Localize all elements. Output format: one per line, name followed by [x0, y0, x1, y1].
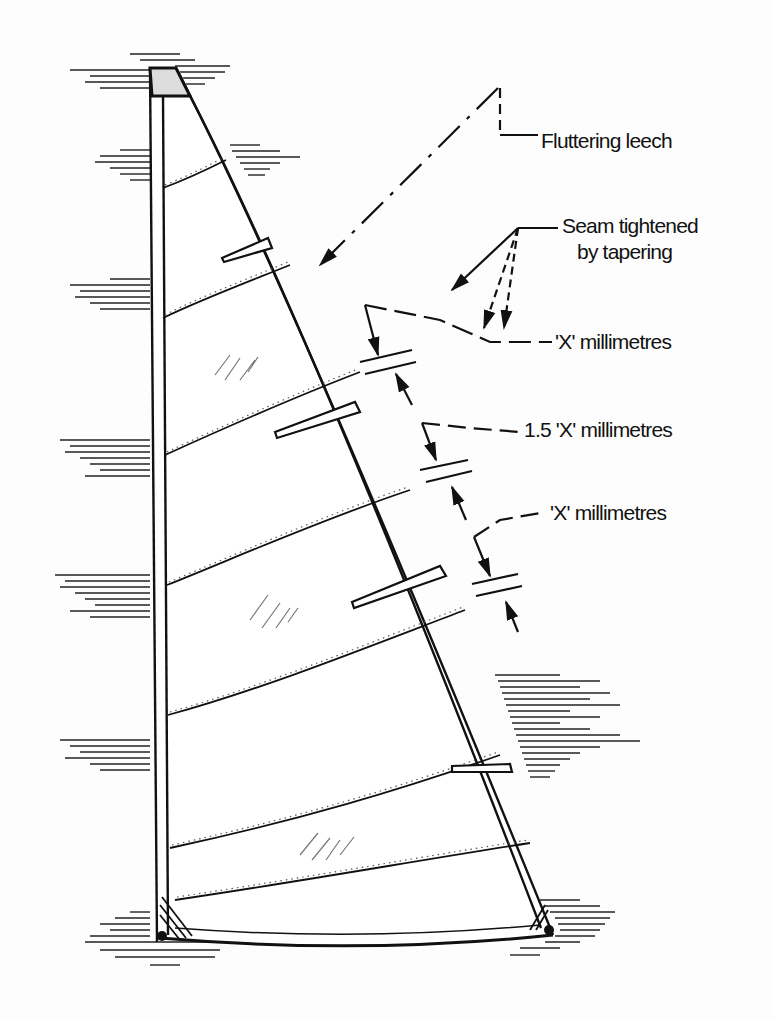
label-x-millimetres-bottom: 'X' millimetres: [550, 501, 666, 524]
label-1-5x-millimetres: 1.5 'X' millimetres: [524, 418, 672, 441]
dimension-x-bottom: [472, 512, 546, 632]
label-by-tapering: by tapering: [577, 240, 672, 263]
seam-tightened-leader: [452, 228, 558, 328]
dimension-1-5x: [420, 423, 520, 520]
sail-outline: [152, 68, 553, 944]
label-seam-tightened: Seam tightened: [562, 214, 698, 237]
dimension-x-top: [360, 305, 552, 405]
label-x-millimetres-top: 'X' millimetres: [555, 330, 671, 353]
label-fluttering-leech: Fluttering leech: [541, 129, 672, 152]
